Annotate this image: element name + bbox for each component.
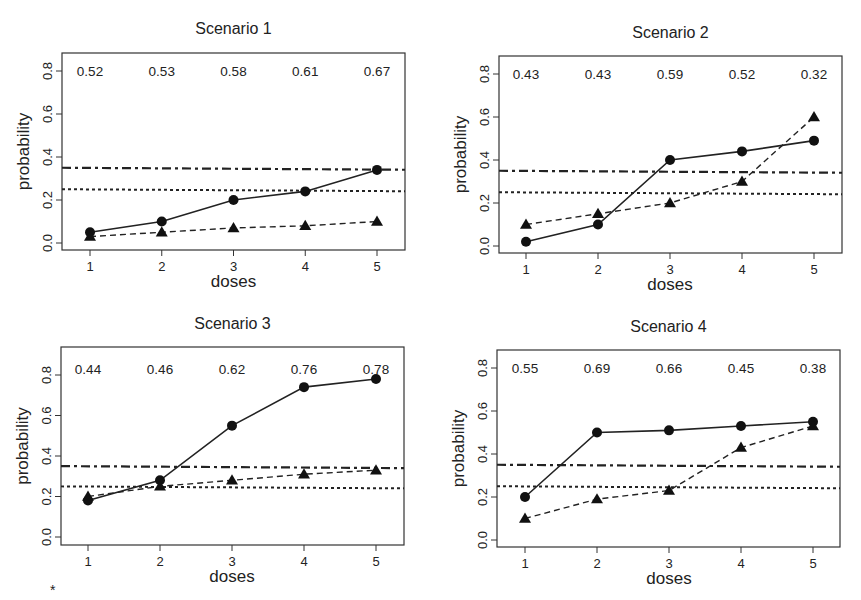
data-annotation: 0.62 [219,362,245,377]
data-annotation: 0.58 [220,64,246,79]
data-annotation: 0.53 [149,64,175,79]
y-tick-label: 0.0 [475,531,490,549]
dotted-reference-line [499,192,842,194]
x-tick-label: 5 [373,259,380,274]
x-axis-label: doses [646,569,691,588]
data-annotation: 0.76 [291,362,317,377]
panel-title: Scenario 1 [195,20,272,37]
x-tick-label: 1 [522,262,529,277]
y-tick-label: 0.0 [40,234,55,252]
footnote-asterisk: * [50,582,55,598]
triangle-marker [736,176,748,186]
circle-marker [300,186,310,196]
data-annotation: 0.52 [77,64,103,79]
panel-scenario-3: Scenario 30.00.20.40.60.8probability1234… [13,315,404,586]
x-tick-label: 5 [809,556,816,571]
y-tick-label: 0.4 [40,148,55,166]
circle-marker [592,428,602,438]
circle-marker [229,195,239,205]
x-tick-label: 2 [593,556,600,571]
dotted-reference-line [62,189,405,191]
y-tick-label: 0.4 [477,151,492,169]
circle-marker [372,165,382,175]
triangle-marker [663,485,675,495]
triangle-marker [592,208,604,218]
circle-marker [227,421,237,431]
panel-scenario-1: Scenario 10.00.20.40.60.8probability1234… [14,20,405,291]
data-annotation: 0.44 [75,362,102,377]
data-annotation: 0.46 [147,362,173,377]
data-annotation: 0.55 [512,361,538,376]
x-tick-label: 2 [156,554,163,569]
x-tick-label: 1 [86,259,93,274]
y-tick-label: 0.2 [475,488,490,506]
data-annotation: 0.43 [513,67,539,82]
data-annotation: 0.45 [728,361,754,376]
panel-title: Scenario 3 [194,315,271,332]
y-tick-label: 0.6 [477,108,492,126]
x-axis-label: doses [211,272,256,291]
triangle-marker [591,493,603,503]
plot-frame [62,53,405,250]
x-tick-label: 2 [158,259,165,274]
y-tick-label: 0.2 [477,194,492,212]
y-tick-label: 0.6 [40,105,55,123]
data-annotation: 0.59 [657,67,683,82]
x-tick-label: 1 [84,554,91,569]
data-annotation: 0.52 [729,67,755,82]
panel-scenario-4: Scenario 40.00.20.40.60.8probability1234… [449,318,840,588]
x-tick-label: 4 [300,554,307,569]
plot-frame [497,350,840,547]
triangle-marker [299,220,311,230]
dotted-reference-line [61,486,404,488]
y-axis-label: probability [13,407,32,485]
circle-marker [520,492,530,502]
x-axis-label: doses [647,275,692,294]
circle-marker [665,155,675,165]
triangle-marker [808,111,820,121]
triangle-marker [664,197,676,207]
dashdot-reference-line [499,171,842,173]
y-tick-label: 0.2 [40,191,55,209]
x-tick-label: 5 [810,262,817,277]
figure-canvas: Scenario 10.00.20.40.60.8probability1234… [0,0,861,600]
plot-frame [499,56,842,253]
x-tick-label: 4 [737,556,744,571]
y-tick-label: 0.6 [39,406,54,424]
triangle-marker [371,216,383,226]
dashdot-reference-line [61,466,404,468]
y-tick-label: 0.8 [475,359,490,377]
y-tick-label: 0.0 [477,237,492,255]
y-axis-label: probability [14,112,33,190]
triangle-marker [370,464,382,474]
dashdot-reference-line [497,465,840,467]
x-tick-label: 4 [302,259,309,274]
y-tick-label: 0.4 [39,447,54,465]
dashdot-reference-line [62,168,405,170]
y-tick-label: 0.0 [39,528,54,546]
data-annotation: 0.43 [585,67,611,82]
triangle-marker [228,222,240,232]
y-tick-label: 0.8 [39,366,54,384]
data-annotation: 0.69 [584,361,610,376]
y-axis-label: probability [449,409,468,487]
circle-marker [736,421,746,431]
circle-marker [521,237,531,247]
data-annotation: 0.67 [364,64,390,79]
data-annotation: 0.66 [656,361,682,376]
data-annotation: 0.32 [801,67,827,82]
dashed-series-line [525,426,813,518]
x-axis-label: doses [209,567,254,586]
y-tick-label: 0.8 [40,62,55,80]
panel-title: Scenario 2 [632,24,709,41]
x-tick-label: 2 [594,262,601,277]
data-annotation: 0.38 [800,361,826,376]
data-annotation: 0.61 [292,64,318,79]
y-axis-label: probability [451,115,470,193]
panel-scenario-2: Scenario 20.00.20.40.60.8probability1234… [451,24,842,294]
circle-marker [299,382,309,392]
x-tick-label: 1 [521,556,528,571]
y-tick-label: 0.4 [475,445,490,463]
circle-marker [737,146,747,156]
y-tick-label: 0.2 [39,487,54,505]
